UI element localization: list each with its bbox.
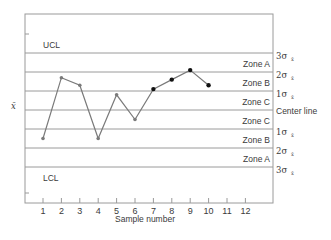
x-tick-label: 1	[40, 206, 45, 216]
zone-label: Zone B	[243, 78, 271, 88]
zone-label: Zone C	[242, 116, 270, 126]
svg-text:x̄: x̄	[291, 75, 294, 81]
data-point	[41, 137, 45, 141]
data-point	[96, 137, 100, 141]
svg-text:1σ: 1σ	[276, 89, 287, 99]
data-point	[60, 76, 64, 80]
zone-label: Zone A	[243, 59, 270, 69]
x-tick-label: 9	[188, 206, 193, 216]
svg-text:2σ: 2σ	[276, 70, 287, 80]
x-tick-label: 11	[222, 206, 231, 216]
svg-text:x̄: x̄	[291, 94, 294, 100]
control-chart: UCL LCL Zone A Zone B Zone C Zone C Zone…	[0, 0, 331, 240]
plot-frame	[25, 14, 273, 203]
x-tick-label: 3	[77, 206, 82, 216]
data-point	[206, 83, 210, 87]
data-point	[78, 84, 82, 88]
x-axis-label: Sample number	[115, 214, 175, 224]
x-tick-label: 2	[59, 206, 64, 216]
data-point	[188, 68, 192, 72]
y-axis-label: x̄	[11, 101, 16, 111]
data-point	[170, 77, 174, 81]
data-line	[43, 70, 209, 138]
zone-label: Zone A	[243, 154, 270, 164]
svg-text:3σ: 3σ	[276, 51, 287, 61]
svg-text:2σ: 2σ	[276, 146, 287, 156]
data-point	[151, 87, 155, 91]
ucl-label: UCL	[43, 40, 60, 50]
svg-text:1σ: 1σ	[276, 127, 287, 137]
reference-lines	[25, 53, 273, 167]
svg-text:x̄: x̄	[291, 132, 294, 138]
lcl-label: LCL	[43, 173, 59, 183]
svg-text:x̄: x̄	[291, 56, 294, 62]
svg-text:x̄: x̄	[291, 170, 294, 176]
x-tick-label: 4	[96, 206, 101, 216]
sigma-labels: 3σ x̄ 2σ x̄ 1σ x̄ Center line 1σ x̄ 2σ x…	[276, 51, 317, 176]
zone-label: Zone C	[242, 97, 270, 107]
center-line-label: Center line	[276, 106, 317, 116]
x-tick-label: 10	[204, 206, 214, 216]
zone-label: Zone B	[243, 135, 271, 145]
data-point	[115, 93, 119, 97]
svg-text:x̄: x̄	[291, 151, 294, 157]
data-point	[133, 118, 137, 122]
svg-text:3σ: 3σ	[276, 165, 287, 175]
x-tick-label: 12	[240, 206, 250, 216]
